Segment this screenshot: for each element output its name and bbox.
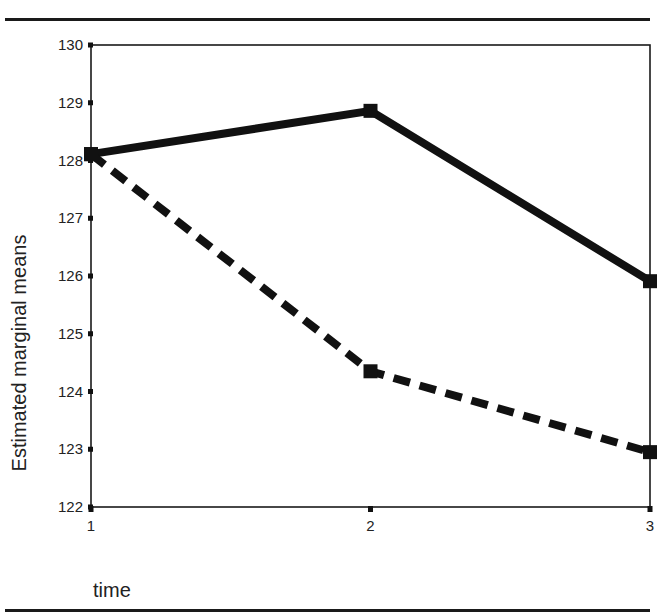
series-line-solid	[91, 111, 650, 281]
data-point-marker	[643, 445, 657, 459]
y-tick-label: 126	[58, 267, 83, 284]
y-tick-mark	[88, 331, 93, 336]
y-tick-mark	[88, 447, 93, 452]
y-tick-label: 128	[58, 152, 83, 169]
y-tick-mark	[88, 389, 93, 394]
series-line-dashed	[91, 154, 650, 452]
data-point-marker	[84, 147, 98, 161]
data-point-marker	[364, 104, 378, 118]
y-tick-label: 124	[58, 383, 83, 400]
y-tick-mark	[88, 274, 93, 279]
y-tick-mark	[88, 43, 93, 48]
y-tick-label: 125	[58, 325, 83, 342]
y-axis-label: Estimated marginal means	[8, 235, 30, 472]
x-tick-label: 3	[646, 517, 654, 534]
y-tick-label: 129	[58, 94, 83, 111]
y-tick-label: 122	[58, 498, 83, 515]
data-point-marker	[643, 274, 657, 288]
y-tick-mark	[88, 216, 93, 221]
x-tick-mark	[89, 506, 94, 512]
data-point-marker	[364, 364, 378, 378]
x-axis-ticks: 123	[87, 506, 654, 534]
data-series	[84, 104, 657, 459]
line-chart: 122123124125126127128129130 123 Estimate…	[0, 0, 665, 614]
y-tick-label: 123	[58, 440, 83, 457]
y-tick-label: 130	[58, 36, 83, 53]
x-tick-label: 1	[87, 517, 95, 534]
x-tick-label: 2	[366, 517, 374, 534]
y-tick-mark	[88, 100, 93, 105]
x-axis-label: time	[93, 579, 131, 601]
y-tick-label: 127	[58, 209, 83, 226]
y-axis-ticks: 122123124125126127128129130	[58, 36, 93, 515]
x-tick-mark	[648, 506, 653, 512]
x-tick-mark	[368, 506, 373, 512]
